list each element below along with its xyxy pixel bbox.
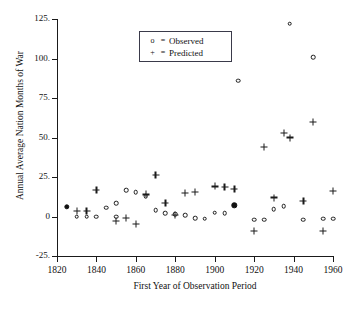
data-point-predicted: [286, 134, 293, 141]
x-tick-label-wrap: 1880: [155, 265, 195, 275]
data-point-observed: [153, 208, 158, 213]
data-point-predicted: [330, 188, 337, 195]
x-tick-label-wrap: 1860: [116, 265, 156, 275]
circle-icon: o: [146, 35, 159, 47]
data-point-observed: [104, 206, 109, 211]
x-tick-label: 1840: [76, 265, 116, 275]
data-point-predicted: [192, 189, 199, 196]
data-point-predicted: [231, 185, 238, 192]
data-point-observed: [134, 190, 139, 195]
data-point-predicted: [113, 218, 120, 225]
x-tick: [175, 256, 176, 262]
y-tick-label-wrap: 50.: [0, 133, 50, 142]
x-tick: [96, 256, 97, 262]
data-point-predicted: [221, 184, 228, 191]
data-point-observed: [183, 213, 188, 218]
data-point-observed: [193, 216, 198, 221]
plus-icon: +: [146, 47, 159, 59]
x-tick-label-wrap: 1920: [234, 265, 274, 275]
data-point-predicted: [132, 220, 139, 227]
x-tick: [333, 256, 334, 262]
data-point-observed: [232, 203, 237, 208]
y-tick-label: 0: [46, 212, 51, 221]
data-point-observed: [124, 188, 129, 193]
y-tick-label-wrap: 125.: [0, 14, 50, 23]
data-point-observed: [84, 214, 89, 219]
data-point-predicted: [73, 207, 80, 214]
y-tick-label: 75.: [39, 93, 50, 102]
x-tick: [294, 256, 295, 262]
x-tick-label: 1960: [313, 265, 353, 275]
x-tick-label-wrap: 1840: [76, 265, 116, 275]
data-point-observed: [163, 211, 168, 216]
data-point-predicted: [320, 227, 327, 234]
x-tick-label-wrap: 1820: [37, 265, 77, 275]
x-tick-label: 1900: [195, 265, 235, 275]
data-point-predicted: [162, 200, 169, 207]
data-point-predicted: [310, 118, 317, 125]
data-point-observed: [236, 78, 241, 83]
data-point-observed: [262, 217, 267, 222]
data-point-predicted: [300, 197, 307, 204]
x-tick-label: 1860: [116, 265, 156, 275]
data-point-predicted: [123, 215, 130, 222]
y-tick-label: 25.: [39, 172, 50, 181]
data-point-observed: [281, 204, 286, 209]
y-tick-label: 125.: [34, 14, 50, 23]
data-point-observed: [94, 214, 99, 219]
data-point-predicted: [251, 227, 258, 234]
data-point-observed: [252, 217, 257, 222]
data-point-predicted: [93, 186, 100, 193]
data-point-predicted: [172, 211, 179, 218]
y-tick-label: -25.: [36, 251, 50, 260]
data-point-predicted: [182, 189, 189, 196]
data-point-observed: [301, 217, 306, 222]
x-tick-label: 1880: [155, 265, 195, 275]
data-point-observed: [222, 211, 227, 216]
legend-equals-observed: =: [159, 35, 167, 47]
x-tick: [215, 256, 216, 262]
x-tick-label-wrap: 1960: [313, 265, 353, 275]
y-tick-label-wrap: -25.: [0, 251, 50, 260]
y-axis-title: Annual Average Nation Months of War: [15, 11, 26, 241]
x-tick-label-wrap: 1900: [195, 265, 235, 275]
y-tick-label: 50.: [39, 133, 50, 142]
data-point-observed: [311, 55, 316, 60]
y-tick-label-wrap: 100.: [0, 54, 50, 63]
x-tick-label: 1920: [234, 265, 274, 275]
data-point-observed: [74, 214, 79, 219]
data-point-observed: [287, 21, 292, 26]
data-point-predicted: [211, 183, 218, 190]
x-tick: [254, 256, 255, 262]
figure-caption: [44, 294, 294, 306]
legend-label-predicted: Predicted: [167, 47, 203, 59]
legend-item-observed: o = Observed: [146, 35, 225, 47]
y-tick-label-wrap: 0: [0, 212, 50, 221]
legend-item-predicted: + = Predicted: [146, 47, 225, 59]
y-tick-label-wrap: 25.: [0, 172, 50, 181]
data-point-observed: [331, 217, 336, 222]
data-point-predicted: [270, 194, 277, 201]
data-point-predicted: [83, 207, 90, 214]
data-point-observed: [114, 201, 119, 206]
legend-equals-predicted: =: [159, 47, 167, 59]
data-point-observed: [212, 210, 217, 215]
x-tick-label: 1820: [37, 265, 77, 275]
x-tick-label-wrap: 1940: [274, 265, 314, 275]
x-tick: [136, 256, 137, 262]
x-tick: [57, 256, 58, 262]
figure-scatter-war-months: Annual Average Nation Months of War 125.…: [0, 0, 353, 309]
data-point-observed: [321, 217, 326, 222]
y-tick-label-wrap: 75.: [0, 93, 50, 102]
legend-label-observed: Observed: [167, 35, 204, 47]
x-tick-label: 1940: [274, 265, 314, 275]
data-point-predicted: [142, 191, 149, 198]
legend: o = Observed + = Predicted: [139, 31, 232, 62]
data-point-observed: [64, 204, 69, 209]
y-tick-label: 100.: [34, 54, 50, 63]
x-axis-line: [57, 256, 333, 257]
x-axis-title: First Year of Observation Period: [57, 281, 333, 292]
data-point-predicted: [261, 143, 268, 150]
data-point-observed: [272, 207, 277, 212]
data-point-observed: [203, 217, 208, 222]
